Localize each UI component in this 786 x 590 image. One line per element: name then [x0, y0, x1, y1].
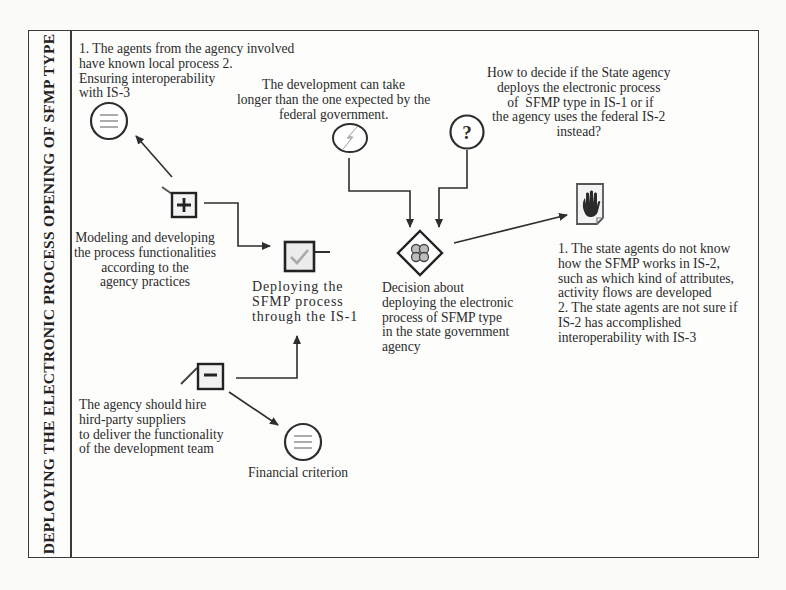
- question-glyph: ?: [462, 122, 472, 143]
- financial-list-circle-icon[interactable]: [285, 424, 321, 460]
- plus-box-icon[interactable]: [162, 187, 196, 217]
- edge-decision-to-risk: [454, 215, 567, 243]
- edge-question-to-decision: [439, 150, 467, 227]
- minus-box-icon[interactable]: [181, 364, 223, 389]
- edge-hire-to-financial: [229, 392, 278, 425]
- diagram-graphics: ?: [0, 0, 786, 590]
- list-circle-icon[interactable]: [91, 103, 127, 139]
- edge-modeling-to-interop: [136, 136, 172, 177]
- lightning-circle-icon[interactable]: [333, 124, 367, 152]
- question-circle-icon[interactable]: ?: [451, 116, 484, 149]
- edge-hire-to-deploying: [236, 336, 297, 378]
- edge-delay-to-decision: [349, 158, 410, 227]
- stop-hand-document-icon[interactable]: [577, 184, 603, 224]
- checkmark-box-icon[interactable]: [285, 242, 314, 271]
- decision-diamond-icon[interactable]: [398, 231, 442, 275]
- edge-modeling-to-deploying: [204, 203, 270, 246]
